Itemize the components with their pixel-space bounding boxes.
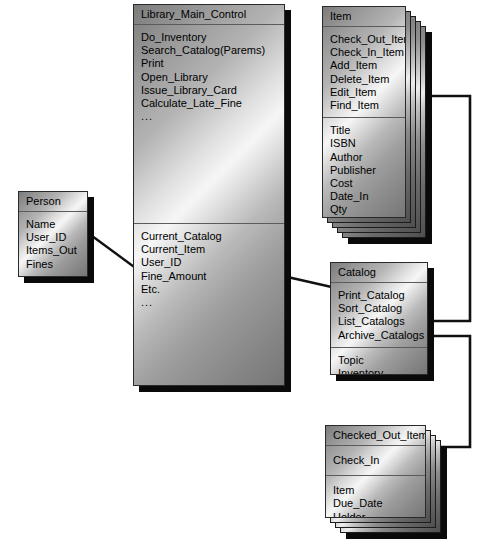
attribute-ellipsis: ... xyxy=(141,296,278,309)
method-item: Find_Item xyxy=(330,99,399,112)
method-item: Add_Item xyxy=(330,59,399,72)
method-item: Print xyxy=(141,57,278,70)
method-item: Do_Inventory xyxy=(141,31,278,44)
class-title: Library_Main_Control xyxy=(134,5,284,25)
methods-compartment: Check_Out_Item Check_In_Item Add_Item De… xyxy=(323,27,405,117)
attributes-compartment: Title ISBN Author Publisher Cost Date_In… xyxy=(323,117,405,218)
method-item: Check_In xyxy=(333,454,419,467)
attributes-compartment: Topic Inventory ... xyxy=(331,347,427,375)
method-item: Archive_Catalogs xyxy=(338,329,421,342)
methods-compartment: Print_Catalog Sort_Catalog List_Catalogs… xyxy=(331,283,427,347)
attribute-item: Current_Item xyxy=(141,243,278,256)
method-item: Search_Catalog(Parems) xyxy=(141,44,278,57)
method-item: Print_Catalog xyxy=(338,289,421,302)
attribute-item: Due_Date xyxy=(333,497,419,510)
attribute-item: Publisher xyxy=(330,164,399,177)
class-body: Item Check_Out_Item Check_In_Item Add_It… xyxy=(322,6,406,218)
attributes-compartment: Name User_ID Items_Out Fines ... xyxy=(19,212,87,277)
attribute-item: Holder xyxy=(333,511,419,518)
attribute-item: Inventory xyxy=(338,367,421,375)
attribute-item: Topic xyxy=(338,354,421,367)
attribute-item: Current_Catalog xyxy=(141,230,278,243)
class-box-checked-out-item[interactable]: Checked_Out_Item Check_In Item Due_Date … xyxy=(325,425,426,518)
methods-compartment: Check_In xyxy=(326,446,425,475)
attribute-item: Name xyxy=(26,218,81,231)
method-item: Delete_Item xyxy=(330,73,399,86)
attribute-item: Cost xyxy=(330,177,399,190)
attribute-item: User_ID xyxy=(141,256,278,269)
attribute-item: Date_In xyxy=(330,190,399,203)
attribute-item: Item xyxy=(333,484,419,497)
attribute-item: Etc. xyxy=(330,217,399,218)
compartment-spacer xyxy=(134,128,284,223)
attribute-item: User_ID xyxy=(26,231,81,244)
class-body: Checked_Out_Item Check_In Item Due_Date … xyxy=(325,425,426,518)
attribute-item: Title xyxy=(330,124,399,137)
method-item: Edit_Item xyxy=(330,86,399,99)
class-diagram-canvas: Library_Main_Control Do_Inventory Search… xyxy=(0,0,489,548)
attribute-item: Fine_Amount xyxy=(141,270,278,283)
method-item: Check_Out_Item xyxy=(330,33,399,46)
class-title: Catalog xyxy=(331,263,427,283)
method-item: Check_In_Item xyxy=(330,46,399,59)
attribute-item: Author xyxy=(330,151,399,164)
class-body: Library_Main_Control Do_Inventory Search… xyxy=(133,4,285,386)
attributes-compartment: Current_Catalog Current_Item User_ID Fin… xyxy=(134,223,284,385)
method-item: Calculate_Late_Fine xyxy=(141,97,278,110)
class-title: Checked_Out_Item xyxy=(326,426,425,446)
attribute-item: Items_Out xyxy=(26,244,81,257)
class-body: Catalog Print_Catalog Sort_Catalog List_… xyxy=(330,262,428,375)
class-box-item[interactable]: Item Check_Out_Item Check_In_Item Add_It… xyxy=(322,6,406,218)
class-title: Item xyxy=(323,7,405,27)
class-title: Person xyxy=(19,192,87,212)
class-box-catalog[interactable]: Catalog Print_Catalog Sort_Catalog List_… xyxy=(330,262,428,375)
attribute-item: Etc. xyxy=(141,283,278,296)
method-item: Open_Library xyxy=(141,71,278,84)
attribute-item: ISBN xyxy=(330,137,399,150)
attribute-item: Fines xyxy=(26,258,81,271)
method-item: Issue_Library_Card xyxy=(141,84,278,97)
attribute-ellipsis: ... xyxy=(26,271,81,277)
class-body: Person Name User_ID Items_Out Fines ... xyxy=(18,191,88,277)
methods-compartment: Do_Inventory Search_Catalog(Parems) Prin… xyxy=(134,25,284,128)
class-box-person[interactable]: Person Name User_ID Items_Out Fines ... xyxy=(18,191,88,277)
method-item: List_Catalogs xyxy=(338,315,421,328)
class-box-library-main-control[interactable]: Library_Main_Control Do_Inventory Search… xyxy=(133,4,285,386)
method-item: Sort_Catalog xyxy=(338,302,421,315)
method-ellipsis: ... xyxy=(141,110,278,123)
attributes-compartment: Item Due_Date Holder xyxy=(326,475,425,518)
attribute-item: Qty xyxy=(330,203,399,216)
